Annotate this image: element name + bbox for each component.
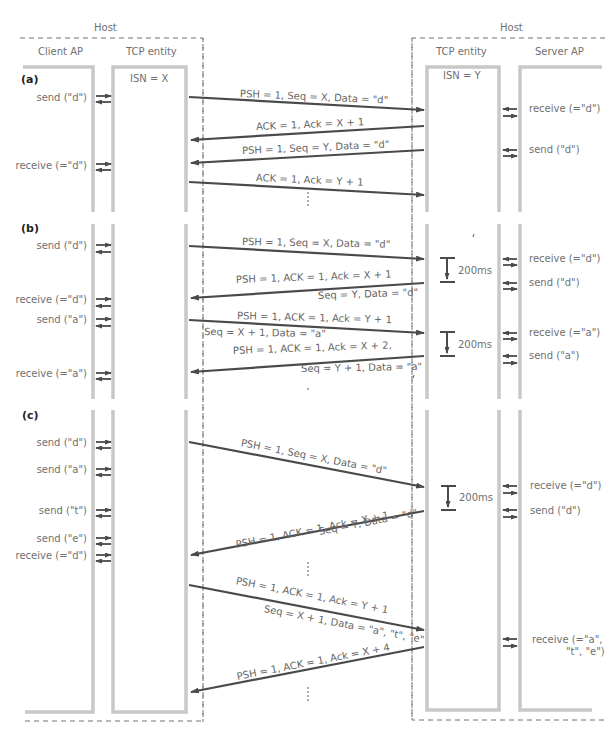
delay-timer-label: 200ms: [458, 265, 492, 277]
panel-c-messages: [189, 442, 424, 692]
server-event: send ("d"): [530, 505, 581, 517]
delay-timers: [440, 258, 456, 510]
client-event: send ("e"): [37, 533, 87, 545]
client-ap-header: Client AP: [38, 46, 83, 58]
message-label: Seq = X + 1, Data = "a": [204, 326, 326, 340]
tcp-entity-left-header: TCP entity: [126, 46, 177, 58]
client-event: receive (="d"): [16, 294, 87, 306]
client-event: send ("a"): [37, 314, 87, 326]
isn-client: ISN = X: [130, 73, 168, 85]
server-event: send ("d"): [529, 144, 580, 156]
server-event: send ("d"): [529, 277, 580, 289]
client-event: send ("d"): [36, 92, 87, 104]
server-interface-arrows: [503, 109, 517, 646]
client-event: send ("a"): [37, 464, 87, 476]
delay-timer-label: 200ms: [458, 339, 492, 351]
tcp-entity-right-header: TCP entity: [436, 46, 487, 58]
server-event: receive (="d"): [529, 103, 600, 115]
client-event: receive (="a"): [16, 368, 87, 380]
delay-timer-label: 200ms: [459, 492, 493, 504]
panel-b-tag: (b): [21, 222, 39, 235]
server-event: send ("a"): [529, 350, 579, 362]
client-event: send ("t"): [39, 505, 87, 517]
server-event: receive (="d"): [529, 253, 600, 265]
server-ap-header: Server AP: [535, 46, 584, 58]
panel-c-tag: (c): [22, 409, 39, 422]
message-label: PSH = 1, Seq = X, Data = "d": [242, 236, 390, 251]
left-host-label: Host: [94, 22, 117, 34]
isn-server: ISN = Y: [443, 70, 481, 82]
client-event: receive (="d"): [16, 160, 87, 172]
server-event: receive (="d"): [530, 480, 601, 492]
message-label: Seq = Y + 1, Data = "a": [301, 361, 422, 375]
right-host-label: Host: [500, 22, 523, 34]
client-interface-arrows: [96, 96, 111, 561]
panel-a-tag: (a): [21, 73, 38, 86]
client-event: receive (="d"): [16, 550, 87, 562]
right-host-boundary: [412, 38, 605, 720]
server-event: receive (="a"): [529, 327, 600, 339]
server-event: "t", "e"): [566, 646, 605, 658]
client-event: send ("d"): [36, 437, 87, 449]
server-event: receive (="a",: [532, 634, 603, 646]
client-event: send ("d"): [36, 240, 87, 252]
